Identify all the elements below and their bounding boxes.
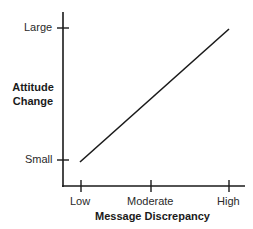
x-tick-label-low: Low bbox=[70, 195, 90, 207]
y-tick-label-small: Small bbox=[25, 153, 53, 165]
y-axis-title-line2: Change bbox=[10, 94, 56, 108]
y-axis-title-line1: Attitude bbox=[10, 80, 56, 94]
x-tick-label-high: High bbox=[217, 195, 240, 207]
x-axis-title: Message Discrepancy bbox=[95, 210, 210, 222]
y-axis-title: Attitude Change bbox=[10, 80, 56, 108]
x-tick-label-moderate: Moderate bbox=[127, 195, 173, 207]
y-tick-label-large: Large bbox=[24, 21, 52, 33]
data-line bbox=[80, 29, 229, 162]
